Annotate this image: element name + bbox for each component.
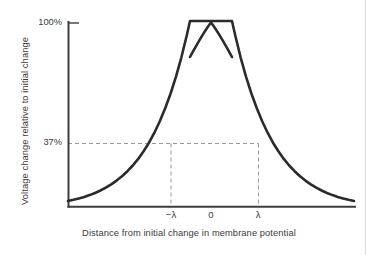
plot-area (0, 0, 378, 255)
y-axis-title: Voltage change relative to initial chang… (20, 11, 30, 231)
figure-container: 100% 37% −λ 0 λ Distance from initial ch… (0, 0, 378, 255)
x-tick-label-zero: 0 (196, 209, 226, 220)
x-tick-label-lambda: λ (243, 209, 273, 220)
x-tick-label-negative-lambda: −λ (156, 209, 186, 220)
voltage-decay-curve (68, 21, 354, 201)
x-axis-title: Distance from initial change in membrane… (0, 228, 378, 238)
curve-apex (190, 23, 232, 58)
